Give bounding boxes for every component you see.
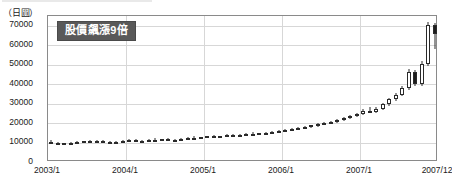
candlestick-body	[153, 140, 157, 142]
candlestick-body	[192, 138, 196, 140]
gridline-vertical	[360, 16, 361, 160]
candlestick	[134, 139, 138, 141]
candlestick	[387, 98, 391, 106]
candlestick	[264, 132, 268, 135]
candlestick	[160, 139, 164, 141]
gridline-horizontal	[48, 84, 436, 85]
gridline-vertical	[282, 16, 283, 160]
candlestick	[56, 142, 60, 144]
candlestick-body	[127, 140, 131, 142]
x-axis-tick-label: 2003/1	[34, 165, 60, 175]
candlestick-body	[348, 116, 352, 118]
candlestick-body	[244, 134, 248, 136]
candlestick-body	[101, 141, 105, 143]
y-axis-tick-label: 40000	[0, 79, 33, 88]
candlestick	[426, 22, 430, 66]
candlestick	[322, 122, 326, 125]
candlestick	[75, 141, 79, 144]
candlestick	[127, 139, 131, 141]
candlestick-body	[173, 140, 177, 142]
x-axis-tick-label: 2004/1	[112, 165, 138, 175]
candlestick-body	[121, 141, 125, 143]
candlestick	[212, 135, 216, 137]
candlestick	[348, 115, 352, 119]
candlestick	[342, 117, 346, 121]
candlestick-body	[49, 142, 53, 144]
candlestick-body	[270, 132, 274, 134]
candlestick-body	[264, 133, 268, 135]
annotation-callout: 股價飆漲9倍	[57, 21, 136, 41]
candlestick	[49, 140, 53, 144]
cropped-title-rule	[0, 0, 447, 4]
candlestick	[62, 143, 66, 145]
y-axis-tick-label: 0	[0, 157, 33, 166]
candlestick	[420, 61, 424, 86]
candlestick	[257, 133, 261, 136]
candlestick	[244, 133, 248, 136]
y-axis-tick-label: 30000	[0, 98, 33, 107]
candlestick	[173, 139, 177, 141]
candlestick-body	[205, 136, 209, 138]
candlestick-body	[413, 72, 417, 84]
candlestick-body	[56, 143, 60, 145]
candlestick-body	[394, 95, 398, 100]
candlestick	[231, 134, 235, 136]
candlestick-body	[225, 135, 229, 137]
candlestick	[140, 140, 144, 142]
candlestick-body	[355, 114, 359, 116]
candlestick	[368, 107, 372, 113]
candlestick-body	[303, 127, 307, 129]
candlestick	[147, 139, 151, 142]
candlestick-body	[114, 142, 118, 144]
x-axis-tick-label: 2007/12	[422, 165, 452, 175]
gridline-horizontal	[48, 45, 436, 46]
candlestick-body	[82, 141, 86, 143]
candlestick	[407, 69, 411, 90]
candlestick	[121, 140, 125, 142]
candlestick	[270, 131, 274, 134]
candlestick	[329, 121, 333, 125]
candlestick	[199, 137, 203, 139]
candlestick	[218, 136, 222, 138]
candlestick-body	[186, 138, 190, 140]
candlestick-body	[160, 139, 164, 141]
gridline-horizontal	[48, 143, 436, 144]
candlestick-body	[134, 140, 138, 142]
candlestick-body	[199, 137, 203, 139]
candlestick-body	[108, 142, 112, 144]
candlestick-body	[400, 88, 404, 95]
x-axis-tick-label: 2006/1	[268, 165, 294, 175]
candlestick	[309, 125, 313, 128]
candlestick	[433, 23, 437, 49]
candlestick-body	[212, 136, 216, 138]
candlestick-body	[381, 104, 385, 109]
candlestick	[225, 134, 229, 137]
candlestick	[192, 136, 196, 138]
candlestick-body	[218, 136, 222, 138]
candlestick	[101, 140, 105, 142]
candlestick-body	[368, 111, 372, 113]
candlestick-body	[251, 134, 255, 136]
candlestick-body	[387, 99, 391, 104]
candlestick-body	[179, 139, 183, 141]
candlestick-body	[426, 25, 430, 64]
candlestick-body	[88, 141, 92, 143]
y-axis-tick-label: 20000	[0, 118, 33, 127]
candlestick-body	[75, 142, 79, 144]
y-axis-tick-label: 60000	[0, 40, 33, 49]
candlestick	[381, 103, 385, 110]
candlestick-body	[433, 25, 437, 35]
candlestick-body	[342, 118, 346, 120]
gridline-horizontal	[48, 104, 436, 105]
candlestick-body	[316, 124, 320, 126]
candlestick	[114, 141, 118, 143]
candlestick	[296, 127, 300, 130]
candlestick	[283, 129, 287, 132]
candlestick-body	[231, 135, 235, 137]
candlestick	[108, 141, 112, 143]
candlestick-body	[374, 109, 378, 112]
candlestick	[179, 138, 183, 141]
candlestick	[413, 70, 417, 87]
candlestick-body	[95, 141, 99, 143]
